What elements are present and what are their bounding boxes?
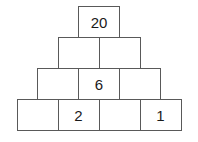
pyramid-cell-value: 2 (74, 108, 82, 123)
pyramid-cell-value: 6 (95, 77, 103, 92)
number-pyramid: 20 6 2 1 (0, 0, 198, 142)
pyramid-cell[interactable] (37, 68, 79, 100)
pyramid-cell[interactable]: 20 (78, 6, 120, 38)
pyramid-cell[interactable] (17, 99, 59, 131)
pyramid-cell-value: 1 (156, 108, 164, 123)
pyramid-cell[interactable]: 6 (78, 68, 120, 100)
pyramid-cell[interactable] (58, 37, 100, 69)
pyramid-row: 20 (78, 6, 120, 38)
pyramid-cell[interactable] (119, 68, 161, 100)
pyramid-cell-value: 20 (91, 15, 108, 30)
pyramid-cell[interactable]: 2 (58, 99, 100, 131)
pyramid-row (58, 37, 141, 69)
pyramid-cell[interactable] (99, 99, 141, 131)
pyramid-cell[interactable] (99, 37, 141, 69)
pyramid-row: 6 (37, 68, 161, 100)
pyramid-cell[interactable]: 1 (140, 99, 182, 131)
pyramid-row: 2 1 (17, 99, 182, 131)
